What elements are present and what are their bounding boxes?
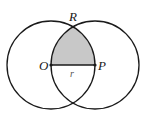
label-r: r: [70, 68, 74, 79]
intersecting-circles-diagram: R O P r: [0, 0, 144, 121]
shaded-region: [51, 27, 95, 65]
label-O: O: [39, 58, 49, 73]
point-O-dot: [49, 63, 52, 66]
label-P: P: [97, 58, 106, 73]
label-R: R: [68, 9, 77, 24]
point-P-dot: [93, 63, 96, 66]
